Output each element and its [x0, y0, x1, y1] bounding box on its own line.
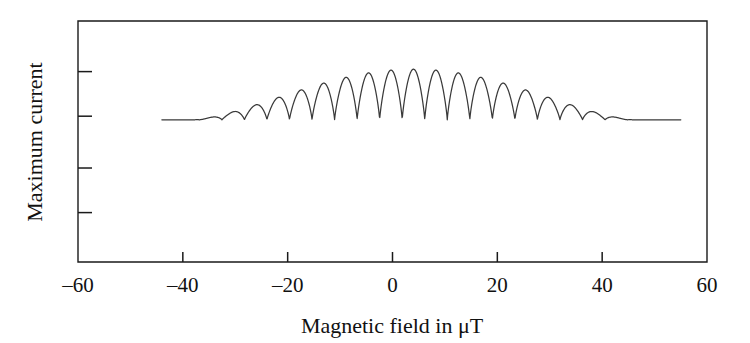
interference-plot: ‒60‒40‒200204060 Magnetic field in μT Ma…: [0, 0, 750, 343]
x-axis-tick-labels: ‒60‒40‒200204060: [61, 273, 717, 297]
x-axis-ticks: [183, 252, 602, 262]
x-tick-label--60: ‒60: [61, 273, 94, 297]
x-tick-label-0: 0: [387, 273, 398, 297]
x-tick-label-20: 20: [487, 273, 508, 297]
x-tick-label-60: 60: [697, 273, 718, 297]
x-tick-label--40: ‒40: [166, 273, 199, 297]
x-tick-label--20: ‒20: [271, 273, 304, 297]
data-curve-maximum-current: [162, 69, 681, 120]
y-axis-ticks: [78, 72, 92, 213]
x-tick-label-40: 40: [592, 273, 613, 297]
figure-container: ‒60‒40‒200204060 Magnetic field in μT Ma…: [0, 0, 750, 343]
x-axis-title: Magnetic field in μT: [301, 313, 484, 338]
y-axis-title: Maximum current: [22, 62, 47, 221]
plot-frame: [78, 21, 707, 262]
